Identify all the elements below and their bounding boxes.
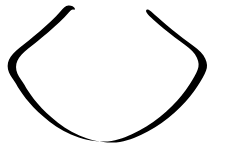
- line-drawing-svg: [0, 0, 228, 148]
- canvas-background: [0, 0, 228, 148]
- drawing-canvas: [0, 0, 228, 148]
